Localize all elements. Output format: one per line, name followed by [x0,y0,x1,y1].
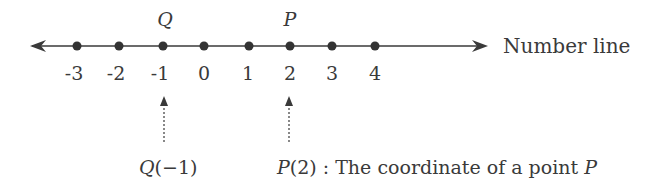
tick-label: 1 [242,64,254,83]
tick-label: 0 [198,64,210,83]
tick-label: 3 [326,64,338,83]
annotation-q-coord: (−1) [155,156,198,178]
up-arrow-icon [160,96,168,106]
tick-label: -3 [65,64,84,83]
annotation-p: P(2) : The coordinate of a point P [277,158,597,177]
annotation-p-name: P [277,156,290,178]
p-pointer-arrow [285,96,293,142]
tick-label: -2 [107,64,126,83]
point-label-p: P [284,10,297,29]
tick-label: 2 [284,64,296,83]
annotation-q: Q(−1) [139,158,197,177]
annotation-p-coord: (2) [290,156,317,178]
q-pointer-arrow [160,96,168,142]
up-arrow-icon [285,96,293,106]
tick-label: 4 [369,64,381,83]
point-label-q: Q [157,10,173,29]
tick-label: -1 [151,64,170,83]
axis-label: Number line [503,36,630,56]
number-line-diagram: Q P -3 -2 -1 0 1 2 3 4 Number line Q(−1)… [0,0,667,188]
annotation-p-name-end: P [584,156,597,178]
annotation-q-name: Q [139,156,155,178]
annotation-p-description: : The coordinate of a point [317,156,584,178]
